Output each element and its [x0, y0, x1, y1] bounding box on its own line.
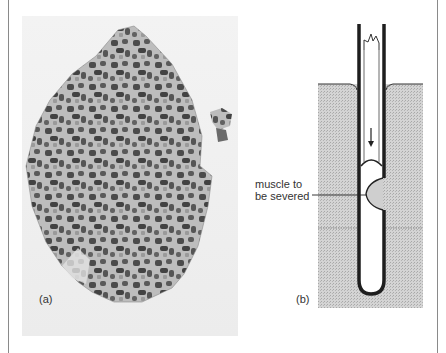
frame-right-border	[437, 0, 438, 353]
muscle-fibre-micrograph	[22, 16, 238, 336]
panel-b-label: (b)	[296, 293, 309, 305]
panel-a-label: (a)	[39, 293, 52, 305]
muscle-annotation-line1: muscle to	[255, 178, 325, 190]
muscle-annotation: muscle to be severed	[255, 178, 325, 202]
severing-diagram-panel	[240, 10, 436, 320]
micrograph-panel	[22, 16, 238, 336]
muscle-annotation-line2: be severed	[255, 190, 325, 202]
tube-diagram	[240, 10, 436, 320]
frame-left-border	[8, 0, 9, 353]
